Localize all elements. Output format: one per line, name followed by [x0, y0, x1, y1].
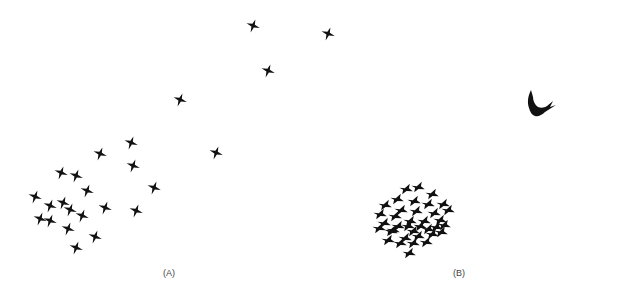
panel-a-label: (A)	[163, 268, 175, 278]
panel-a-dispersed-flock: (A)	[0, 0, 310, 299]
panel-b-compact-flock: (B)	[310, 0, 619, 299]
panel-b-label: (B)	[453, 268, 465, 278]
hawk-icon	[523, 88, 559, 128]
